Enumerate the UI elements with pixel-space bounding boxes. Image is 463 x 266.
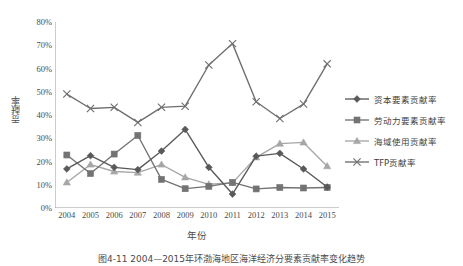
data-point-square <box>111 151 117 157</box>
x-tick-label: 2014 <box>295 211 312 220</box>
data-point-cross <box>276 115 283 122</box>
x-axis-tick-labels: 2004200520062007200820092010201120122013… <box>55 211 339 225</box>
y-axis-title: 贡献率 <box>8 96 21 123</box>
data-point-cross <box>324 60 331 67</box>
data-point-triangle <box>158 161 165 167</box>
data-point-triangle <box>182 174 189 180</box>
data-point-square <box>88 171 94 177</box>
y-tick-label: 60% <box>36 65 52 74</box>
data-point-cross <box>63 90 70 97</box>
data-point-square <box>135 132 141 138</box>
figure-caption: 图4-11 2004—2015年环渤海地区海洋经济分要素贡献率变化趋势 <box>0 252 463 265</box>
data-point-diamond <box>276 150 283 157</box>
data-point-diamond <box>63 166 70 173</box>
y-tick-label: 20% <box>36 158 52 167</box>
data-point-square <box>182 186 188 192</box>
data-point-square <box>301 185 307 191</box>
legend-marker-square-icon <box>344 114 370 126</box>
chart-legend: 资本要素贡献率劳动力要素贡献率海域使用贡献率TFP贡献率 <box>344 88 463 172</box>
y-tick-label: 30% <box>36 134 52 143</box>
data-point-square <box>159 176 165 182</box>
data-point-diamond <box>354 95 361 102</box>
legend-marker-triangle-icon <box>344 135 370 147</box>
data-point-diamond <box>87 152 94 159</box>
y-tick-label: 70% <box>36 41 52 50</box>
data-point-triangle <box>87 161 94 167</box>
legend-marker-diamond-icon <box>344 93 370 105</box>
series-3 <box>63 40 331 126</box>
x-tick-label: 2004 <box>58 211 75 220</box>
legend-item-3[interactable]: TFP贡献率 <box>344 151 463 172</box>
x-tick-label: 2005 <box>82 211 99 220</box>
y-tick-label: 10% <box>36 181 52 190</box>
data-point-diamond <box>111 164 118 171</box>
data-point-cross <box>300 100 307 107</box>
legend-marker-cross-icon <box>344 156 370 168</box>
data-point-square <box>230 179 236 185</box>
data-point-square <box>277 185 283 191</box>
x-tick-label: 2006 <box>106 211 123 220</box>
legend-label: TFP贡献率 <box>370 156 416 168</box>
data-point-cross <box>134 119 141 126</box>
legend-label: 海域使用贡献率 <box>370 135 437 147</box>
legend-item-2[interactable]: 海域使用贡献率 <box>344 130 463 151</box>
data-point-cross <box>229 40 236 47</box>
x-axis-title: 年份 <box>0 228 394 242</box>
y-tick-label: 0% <box>41 204 52 213</box>
figure-container: 0%10%20%30%40%50%60%70%80% 贡献率 200420052… <box>0 0 463 266</box>
x-tick-label: 2011 <box>224 211 241 220</box>
x-tick-label: 2008 <box>153 211 170 220</box>
legend-item-0[interactable]: 资本要素贡献率 <box>344 88 463 109</box>
x-tick-label: 2010 <box>200 211 217 220</box>
y-tick-label: 50% <box>36 88 52 97</box>
x-tick-label: 2007 <box>129 211 146 220</box>
x-tick-label: 2015 <box>319 211 336 220</box>
data-point-cross <box>253 98 260 105</box>
legend-label: 劳动力要素贡献率 <box>370 114 446 126</box>
legend-item-1[interactable]: 劳动力要素贡献率 <box>344 109 463 130</box>
legend-label: 资本要素贡献率 <box>370 93 437 105</box>
data-point-square <box>354 117 360 123</box>
x-tick-label: 2012 <box>248 211 265 220</box>
x-tick-label: 2009 <box>177 211 194 220</box>
data-point-cross <box>205 61 212 68</box>
y-tick-label: 40% <box>36 111 52 120</box>
y-tick-label: 80% <box>36 18 52 27</box>
line-chart-svg <box>55 22 339 208</box>
series-0 <box>63 126 330 197</box>
x-tick-label: 2013 <box>271 211 288 220</box>
data-point-square <box>253 186 259 192</box>
data-point-square <box>206 183 212 189</box>
data-point-square <box>64 152 70 158</box>
plot-area <box>55 22 339 208</box>
